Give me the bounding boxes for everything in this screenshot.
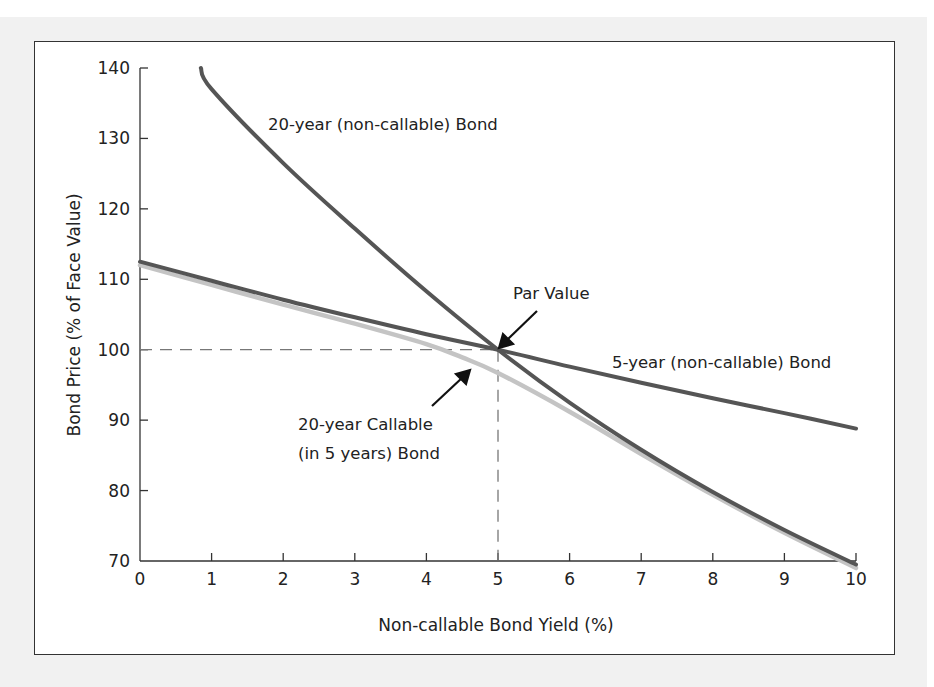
y-tick-labels: 708090100110120130140 [98,58,130,571]
callable-arrow-icon [432,370,470,406]
y-tick-label: 110 [98,269,130,289]
label-callable-line1: 20-year Callable [298,415,433,434]
y-axis [140,68,148,561]
series-5yr-noncallable [140,262,856,429]
label-callable-line2: (in 5 years) Bond [298,444,440,463]
par-value-arrow-icon [499,311,537,348]
x-tick-labels: 012345678910 [135,569,867,589]
label-5yr-noncallable: 5-year (non-callable) Bond [612,353,831,372]
y-tick-label: 140 [98,58,130,78]
x-tick-label: 0 [135,569,146,589]
y-tick-label: 70 [108,551,130,571]
y-tick-label: 130 [98,128,130,148]
y-tick-label: 80 [108,481,130,501]
x-tick-label: 9 [779,569,790,589]
bond-price-chart: 708090100110120130140 012345678910 20-ye… [0,0,934,687]
series-20yr-noncallable [201,68,856,565]
x-tick-label: 2 [278,569,289,589]
label-par-value: Par Value [513,284,590,303]
x-axis-title: Non-callable Bond Yield (%) [378,615,613,635]
x-tick-label: 4 [421,569,432,589]
y-tick-label: 120 [98,199,130,219]
x-tick-label: 10 [845,569,867,589]
x-tick-label: 7 [636,569,647,589]
y-axis-title: Bond Price (% of Face Value) [64,193,84,436]
y-tick-label: 90 [108,410,130,430]
y-tick-label: 100 [98,340,130,360]
x-tick-label: 6 [564,569,575,589]
label-20yr-noncallable: 20-year (non-callable) Bond [268,115,498,134]
x-tick-label: 8 [707,569,718,589]
x-tick-label: 1 [206,569,217,589]
x-tick-label: 3 [349,569,360,589]
x-tick-label: 5 [493,569,504,589]
